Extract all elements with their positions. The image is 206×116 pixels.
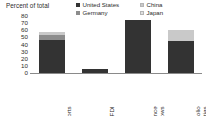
y-tick-label: 40 (21, 42, 28, 48)
chart-container: Percent of total United States China Ger… (0, 0, 206, 116)
x-label-slot: Portfolioliabilities (159, 75, 202, 116)
x-tick-label: Exports (65, 106, 71, 116)
bar-stack[interactable] (125, 20, 151, 73)
x-label-slot: Remittanceinflows (116, 75, 159, 116)
x-tick-label: Portfolio (194, 106, 200, 116)
bar-group (30, 16, 202, 73)
y-tick-label: 70 (21, 20, 28, 26)
x-axis: ExportsInward FDIRemittanceinflowsPortfo… (30, 75, 202, 116)
legend-swatch-united-states (76, 3, 80, 7)
bar-stack[interactable] (168, 30, 194, 73)
y-tick-label: 30 (21, 49, 28, 55)
legend-swatch-china (140, 3, 144, 7)
legend-swatch-germany (76, 11, 80, 15)
legend-swatch-japan (140, 11, 144, 15)
y-tick-label: 60 (21, 27, 28, 33)
bar-stack[interactable] (39, 32, 65, 73)
x-label-slot: Inward FDI (73, 75, 116, 116)
y-tick-label: 50 (21, 34, 28, 40)
y-tick-label: 80 (21, 13, 28, 19)
x-tick-label: Inward FDI (108, 106, 114, 116)
bar-segment[interactable] (168, 41, 194, 73)
bar-segment[interactable] (39, 40, 65, 73)
bar-slot (159, 16, 202, 73)
legend-entry-united-states: United States (76, 1, 138, 9)
bar-slot (73, 16, 116, 73)
x-axis-line (30, 73, 202, 74)
bar-slot (116, 16, 159, 73)
y-tick-label: 10 (21, 63, 28, 69)
bar-segment[interactable] (168, 30, 194, 41)
x-label-slot: Exports (30, 75, 73, 116)
chart-title: Percent of total (6, 2, 49, 9)
plot-area (30, 16, 202, 74)
chart-legend: United States China Germany Japan (76, 1, 204, 17)
legend-entry-china: China (140, 1, 202, 9)
legend-label-china: China (147, 1, 163, 9)
legend-label-united-states: United States (83, 1, 120, 9)
bar-segment[interactable] (125, 20, 151, 73)
y-tick-label: 0 (25, 70, 28, 76)
y-axis: 01020304050607080 (6, 14, 28, 74)
x-tick-label: Remittance (151, 106, 157, 116)
y-tick-label: 20 (21, 56, 28, 62)
bar-slot (30, 16, 73, 73)
x-tick-label: liabilities (201, 106, 206, 116)
